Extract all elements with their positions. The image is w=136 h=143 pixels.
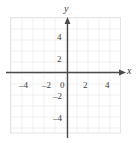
xtick-label-zero: 0 <box>60 81 65 90</box>
ytick-label-neg2: –2 <box>53 92 62 101</box>
x-axis-label: x <box>127 66 131 76</box>
xtick-label-pos2: 2 <box>83 81 88 90</box>
coordinate-plane-figure: –4 –2 0 2 4 4 2 –2 –4 x y <box>0 0 136 143</box>
xtick-label-pos4: 4 <box>105 81 110 90</box>
xtick-label-neg2: –2 <box>42 81 51 90</box>
ytick-label-neg4: –4 <box>53 114 62 123</box>
x-axis-arrowhead <box>119 70 126 76</box>
ytick-label-pos4: 4 <box>57 33 62 42</box>
y-axis-label: y <box>64 4 68 14</box>
xtick-label-neg4: –4 <box>19 81 28 90</box>
ytick-label-pos2: 2 <box>57 55 62 64</box>
coordinate-grid-svg <box>0 0 136 143</box>
grid-area <box>11 18 121 134</box>
